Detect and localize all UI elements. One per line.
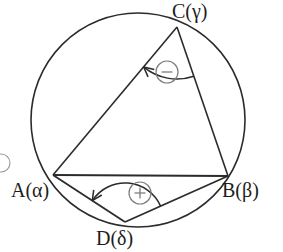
vertex-label-D: D(δ) bbox=[96, 228, 133, 248]
chord-DB bbox=[125, 176, 228, 222]
chord-AC bbox=[53, 27, 177, 175]
chord-CB bbox=[177, 27, 228, 176]
geometry-figure: C(γ) A(α) B(β) D(δ) bbox=[0, 0, 283, 252]
vertex-label-A: A(α) bbox=[11, 180, 49, 200]
circumcircle bbox=[31, 13, 245, 227]
geometry-canvas bbox=[0, 0, 283, 252]
chord-AB bbox=[53, 175, 228, 176]
clipped-badge-left-edge-icon bbox=[0, 154, 10, 172]
vertex-label-C: C(γ) bbox=[172, 1, 208, 21]
vertex-label-B: B(β) bbox=[222, 180, 259, 200]
